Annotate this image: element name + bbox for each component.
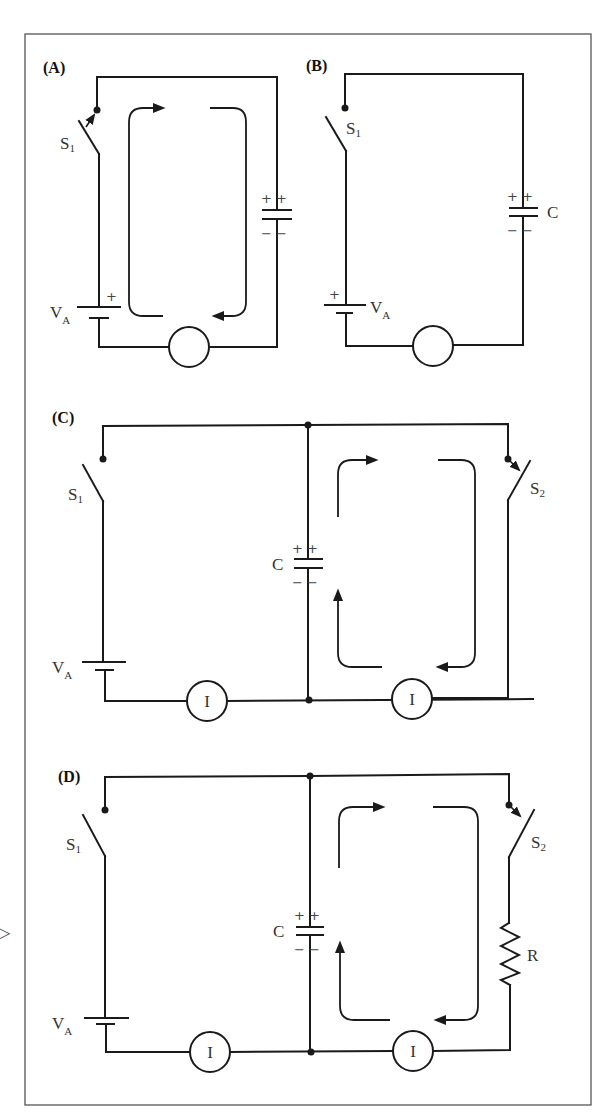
switch-s1-label: S1 xyxy=(68,485,83,505)
capacitor-bottom-signs: − − xyxy=(294,942,320,957)
capacitor-label: C xyxy=(547,203,558,222)
meter-label: I xyxy=(409,690,415,709)
battery-label: VA xyxy=(52,658,72,681)
switch-s1 xyxy=(79,121,99,154)
wire xyxy=(97,77,277,210)
wire xyxy=(345,74,523,208)
current-arrow-icon xyxy=(340,943,390,1020)
panel-d-label: (D) xyxy=(58,768,80,786)
switch-motion-arrow-icon xyxy=(86,115,94,127)
panel-a-label: (A) xyxy=(43,59,65,77)
wire xyxy=(99,318,169,347)
current-arrow-icon xyxy=(210,108,246,316)
meter xyxy=(413,326,453,366)
wire xyxy=(105,774,509,810)
switch-motion-arrow-icon xyxy=(511,807,520,816)
current-arrow-icon xyxy=(338,591,382,667)
switch-label: S1 xyxy=(346,119,361,139)
current-arrow-icon xyxy=(433,807,478,1020)
capacitor-bottom-signs: − − xyxy=(292,575,318,590)
wire xyxy=(432,500,508,698)
current-arrow-icon xyxy=(338,460,376,517)
switch-contact xyxy=(102,807,109,814)
meter-label: I xyxy=(204,692,210,711)
switch-contact xyxy=(342,105,349,112)
current-arrow-icon xyxy=(129,108,163,316)
switch-contact xyxy=(100,456,107,463)
switch-s2-label: S2 xyxy=(530,479,545,499)
junction-dot xyxy=(306,697,313,704)
capacitor-bottom-signs: − − xyxy=(261,226,287,241)
capacitor-circuit-diagram: ▷ (A) S1 + VA + + − − (B) xyxy=(0,0,614,1112)
switch-s1-label: S1 xyxy=(66,835,81,855)
side-marker-icon: ▷ xyxy=(0,923,11,942)
panel-d: (D) S1 S2 R VA + + − − C I xyxy=(52,768,546,1072)
capacitor-top-signs: + + xyxy=(507,189,533,204)
panel-c-label: (C) xyxy=(52,409,74,427)
wire xyxy=(106,1024,190,1052)
battery-label: VA xyxy=(370,298,390,321)
battery-label: VA xyxy=(52,1014,72,1037)
battery-label: VA xyxy=(50,303,70,326)
current-arrow-icon xyxy=(339,807,383,868)
capacitor-top-signs: + + xyxy=(261,191,287,206)
switch-label: S1 xyxy=(60,134,75,154)
capacitor-label: C xyxy=(273,922,284,941)
capacitor-bottom-signs: − − xyxy=(507,223,533,238)
panel-b-label: (B) xyxy=(306,57,327,75)
meter-label: I xyxy=(207,1043,213,1062)
panel-a: (A) S1 + VA + + − − xyxy=(43,59,291,367)
switch-motion-arrow-icon xyxy=(510,461,519,470)
wire xyxy=(227,699,533,701)
switch-contact xyxy=(94,107,101,114)
wire xyxy=(346,313,413,346)
capacitor-top-signs: + + xyxy=(292,541,318,556)
current-arrow-icon xyxy=(438,460,475,667)
junction-dot xyxy=(307,773,314,780)
switch-s1 xyxy=(83,465,103,501)
meter-label: I xyxy=(410,1042,416,1061)
switch-s2 xyxy=(508,461,530,500)
capacitor-label: C xyxy=(272,555,283,574)
resistor-label: R xyxy=(527,946,539,965)
wire xyxy=(103,424,508,459)
junction-dot xyxy=(305,422,312,429)
battery-polarity: + xyxy=(329,287,340,302)
switch-s1 xyxy=(83,815,105,856)
switch-s1 xyxy=(326,117,346,151)
junction-dot xyxy=(308,1049,315,1056)
panel-c: (C) S1 S2 VA + + − − C I I xyxy=(52,409,545,721)
battery-polarity: + xyxy=(106,289,117,304)
panel-b: (B) S1 + VA + + − − C xyxy=(306,57,558,366)
switch-s2-label: S2 xyxy=(531,833,546,853)
meter xyxy=(169,327,209,367)
wire xyxy=(105,670,187,701)
resistor xyxy=(501,923,519,985)
capacitor-top-signs: + + xyxy=(294,908,320,923)
